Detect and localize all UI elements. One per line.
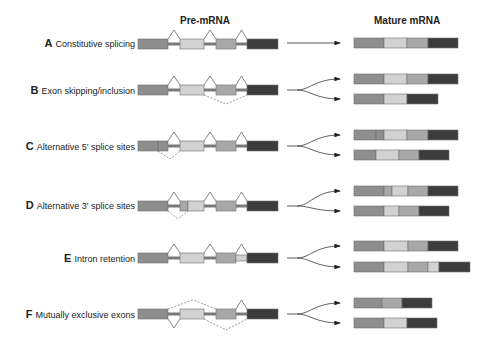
- exon-block: [216, 253, 236, 263]
- intron-line: [236, 43, 247, 46]
- intron-line: [236, 89, 247, 92]
- splice-caret: [236, 30, 247, 39]
- mature-exon: [419, 150, 449, 160]
- intron-line: [204, 145, 216, 148]
- splice-caret: [236, 244, 247, 253]
- mature-exon: [354, 186, 384, 196]
- exon-block: [138, 309, 168, 319]
- exon-block: [180, 309, 204, 319]
- mature-exon: [354, 74, 384, 84]
- exon-block: [216, 39, 236, 49]
- mature-exon: [428, 130, 458, 140]
- intron-line: [168, 257, 180, 260]
- splice-caret: [168, 132, 180, 141]
- exon-block: [180, 201, 188, 211]
- splice-caret: [204, 30, 216, 39]
- arrow: [287, 79, 340, 90]
- intron-line: [168, 43, 180, 46]
- exon-block: [247, 253, 278, 263]
- mature-exon: [399, 206, 419, 216]
- mature-exon: [376, 130, 384, 140]
- intron-line: [236, 145, 247, 148]
- arrow: [287, 303, 340, 314]
- alt-splice-path: [168, 300, 216, 309]
- mature-exon: [384, 38, 407, 48]
- mature-exon: [382, 298, 402, 308]
- arrow: [297, 206, 340, 211]
- alt-splice-path: [168, 211, 188, 219]
- splice-caret: [236, 132, 247, 141]
- mature-exon: [384, 74, 407, 84]
- mature-exon: [408, 262, 428, 272]
- splice-caret: [168, 192, 180, 201]
- mature-exon: [384, 206, 399, 216]
- mature-exon: [354, 38, 384, 48]
- exon-block: [216, 201, 236, 211]
- exon-block: [138, 39, 168, 49]
- mature-exon: [407, 318, 437, 328]
- exon-block: [216, 309, 236, 319]
- splice-caret: [204, 132, 216, 141]
- arrow: [287, 135, 340, 146]
- mature-exon: [354, 298, 382, 308]
- intron-line: [204, 313, 216, 316]
- intron-line: [168, 145, 180, 148]
- arrow: [297, 314, 340, 323]
- retained-intron: [236, 255, 247, 261]
- exon-block: [138, 85, 168, 95]
- splice-caret: [168, 76, 180, 85]
- mature-exon: [354, 262, 384, 272]
- arrow: [287, 191, 340, 206]
- intron-line: [204, 89, 216, 92]
- mature-exon: [402, 298, 432, 308]
- mature-exon: [407, 74, 428, 84]
- intron-line: [204, 257, 216, 260]
- splice-caret: [168, 319, 180, 328]
- exon-block: [247, 141, 278, 151]
- exon-block: [216, 141, 236, 151]
- mature-exon: [408, 186, 428, 196]
- mature-exon: [384, 241, 408, 251]
- mature-exon: [376, 150, 399, 160]
- alt-splice-path: [204, 95, 247, 104]
- intron-line: [204, 205, 216, 208]
- mature-exon: [399, 150, 419, 160]
- mature-exon: [407, 130, 428, 140]
- mature-exon: [384, 262, 408, 272]
- intron-line: [168, 205, 180, 208]
- arrow: [297, 90, 340, 99]
- intron-line: [168, 313, 180, 316]
- mature-exon: [439, 262, 470, 272]
- mature-exon: [428, 241, 458, 251]
- mature-exon: [407, 94, 438, 104]
- exon-block: [180, 85, 204, 95]
- arrow: [287, 246, 340, 258]
- mature-exon: [408, 241, 428, 251]
- exon-block: [180, 141, 204, 151]
- exon-block: [247, 85, 278, 95]
- intron-line: [236, 205, 247, 208]
- alt-splice-path: [158, 151, 180, 159]
- mature-exon: [428, 186, 458, 196]
- mature-exon: [384, 318, 407, 328]
- mature-exon: [428, 262, 439, 272]
- splice-caret: [236, 76, 247, 85]
- exon-block: [216, 85, 236, 95]
- mature-exon: [407, 38, 428, 48]
- alt-splice-path: [204, 319, 247, 330]
- mature-exon: [354, 94, 384, 104]
- mature-exon: [384, 186, 392, 196]
- intron-line: [236, 313, 247, 316]
- mature-exon: [428, 38, 458, 48]
- arrow: [297, 258, 340, 267]
- splicing-diagram: [0, 0, 480, 342]
- splice-caret: [204, 76, 216, 85]
- exon-block: [188, 201, 204, 211]
- exon-block: [180, 253, 204, 263]
- mature-exon: [354, 318, 384, 328]
- mature-exon: [384, 130, 407, 140]
- exon-block: [180, 39, 204, 49]
- exon-block: [138, 201, 168, 211]
- mature-exon: [392, 186, 408, 196]
- intron-line: [204, 43, 216, 46]
